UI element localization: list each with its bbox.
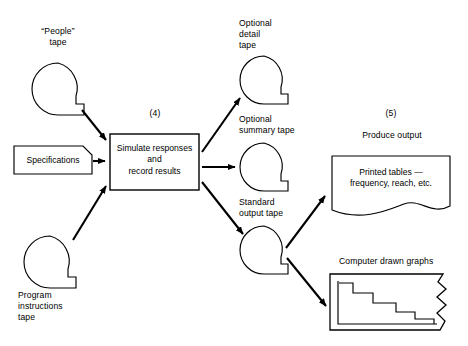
- program-instructions-tape-label: Program instructions tape: [18, 290, 128, 324]
- edge-standard-tape-to-graphs: [287, 258, 326, 306]
- edge-process-to-standard-tape: [202, 182, 243, 234]
- standard-output-tape-label: Standard output tape: [239, 197, 329, 219]
- edge-people-tape-to-process: [82, 110, 106, 140]
- computer-drawn-graphs-shape: [330, 274, 446, 330]
- edge-process-to-detail-tape: [202, 98, 240, 152]
- standard-output-tape-shape: [240, 226, 288, 274]
- people-tape-label: “People” tape: [18, 26, 98, 48]
- flowchart-diagram: “People” tape Program instructions tape …: [0, 0, 468, 346]
- edge-program-tape-to-process: [73, 186, 106, 240]
- program-instructions-tape-shape: [24, 236, 76, 288]
- process-box-label: Simulate responses and record results: [110, 143, 199, 177]
- specifications-label: Specifications: [14, 155, 92, 166]
- produce-output-label: Produce output: [346, 130, 438, 141]
- people-tape-shape: [32, 63, 84, 115]
- produce-output-step-number: (5): [356, 108, 426, 119]
- computer-drawn-graphs-label: Computer drawn graphs: [339, 256, 468, 267]
- optional-summary-tape-shape: [240, 143, 288, 191]
- optional-detail-tape-label: Optional detail tape: [239, 18, 325, 52]
- optional-summary-tape-label: Optional summary tape: [239, 114, 335, 136]
- process-step-number: (4): [120, 108, 190, 119]
- optional-detail-tape-shape: [240, 56, 288, 104]
- printed-tables-label: Printed tables — frequency, reach, etc.: [334, 167, 448, 190]
